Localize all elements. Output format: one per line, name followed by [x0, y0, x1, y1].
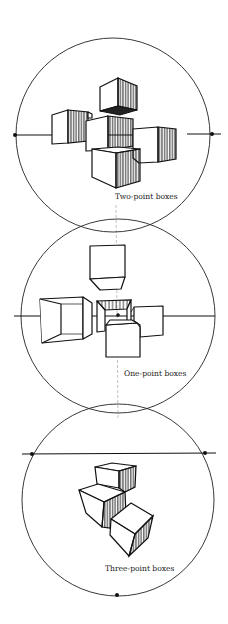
three-point-panel: Three-point boxes	[22, 404, 216, 597]
vanishing-point-bottom	[115, 593, 119, 597]
box-top	[100, 78, 137, 115]
caption-two-point: Two-point boxes	[115, 192, 178, 201]
one-point-panel: One-point boxes	[14, 219, 215, 413]
three-point-horizon-line	[22, 453, 216, 454]
box-front	[92, 147, 140, 188]
box-left	[40, 297, 92, 343]
caption-three-point: Three-point boxes	[105, 564, 175, 573]
box-center	[86, 116, 133, 151]
caption-one-point: One-point boxes	[124, 369, 187, 378]
vanishing-point-left	[30, 452, 34, 456]
vanishing-point-center	[116, 313, 120, 317]
vertical-guide-line	[116, 205, 118, 420]
perspective-boxes-diagram: Two-point boxes	[0, 0, 228, 624]
vanishing-point-left	[13, 133, 17, 137]
box-front	[106, 320, 140, 357]
two-point-panel: Two-point boxes	[13, 38, 221, 232]
vanishing-point-right	[210, 132, 214, 136]
vanishing-point-right	[203, 451, 207, 455]
box-top	[90, 245, 125, 290]
